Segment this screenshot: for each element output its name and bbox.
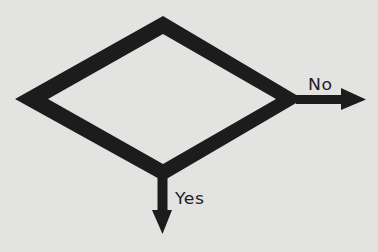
diagram-graphics [0,0,378,252]
yes-arrow [152,172,172,234]
no-branch-label: No [308,78,333,93]
decision-diagram: No Yes [0,0,378,252]
decision-diamond [15,16,303,181]
yes-branch-label: Yes [175,192,205,207]
